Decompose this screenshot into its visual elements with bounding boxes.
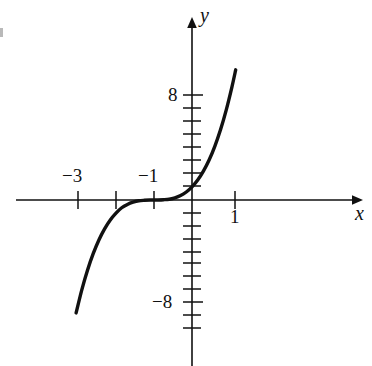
y-axis-label-pos8: 8 bbox=[168, 85, 178, 104]
x-axis bbox=[16, 195, 363, 205]
x-axis-label-pos1: 1 bbox=[230, 207, 240, 226]
function-curve bbox=[76, 70, 236, 313]
y-axis-name: y bbox=[200, 5, 209, 25]
y-axis-label-neg8: −8 bbox=[152, 292, 172, 311]
x-axis-label-neg1: −1 bbox=[138, 166, 158, 185]
graph-figure: −3 −1 1 8 −8 x y bbox=[0, 0, 372, 366]
y-axis-arrowhead-icon bbox=[187, 17, 197, 28]
x-axis-name: x bbox=[355, 203, 364, 223]
plot-canvas bbox=[0, 0, 372, 366]
y-axis-ticks bbox=[183, 95, 203, 328]
x-axis-label-neg3: −3 bbox=[62, 166, 82, 185]
